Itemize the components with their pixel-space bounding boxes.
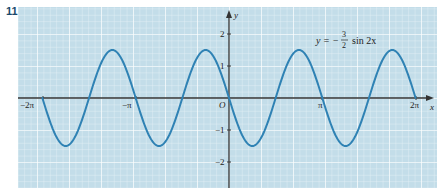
x-tick-label: π <box>318 100 323 110</box>
equation-lhs: y = − <box>315 35 339 46</box>
equation-rhs: sin 2x <box>352 35 376 46</box>
origin-label: O <box>219 100 226 110</box>
x-tick-label: −π <box>122 100 132 110</box>
x-tick-label: 2π <box>410 100 420 110</box>
y-tick-label: −1 <box>215 125 225 135</box>
y-axis-label: y <box>233 10 238 20</box>
equation-denominator: 2 <box>342 41 346 50</box>
equation-numerator: 3 <box>342 30 346 39</box>
y-tick-label: −2 <box>215 157 225 167</box>
x-axis-label: x <box>429 102 434 112</box>
x-tick-label: −2π <box>20 100 35 110</box>
y-tick-label: 1 <box>220 61 225 71</box>
sine-graph: −2π −π π 2π x y 2 1 −1 −2 O y = − 3 2 si… <box>0 0 440 195</box>
y-tick-label: 2 <box>220 29 225 39</box>
